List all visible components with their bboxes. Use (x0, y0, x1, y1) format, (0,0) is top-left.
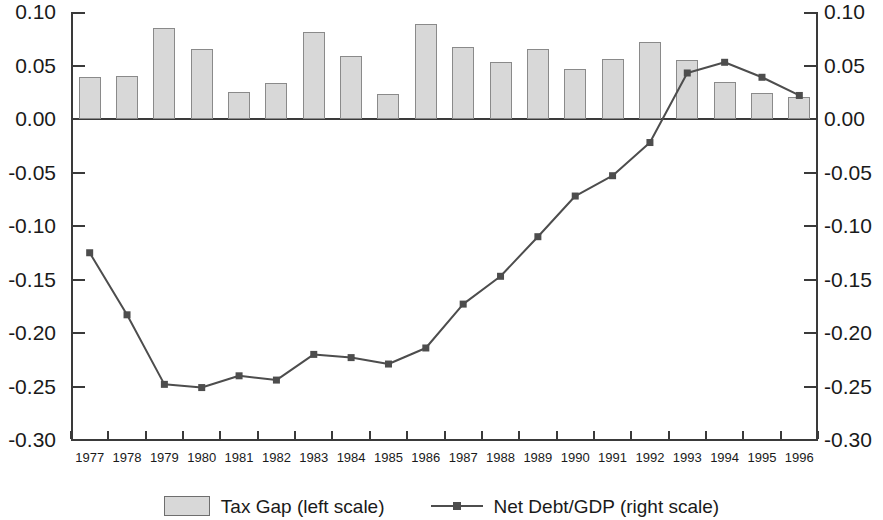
bar-tax-gap (452, 47, 474, 119)
left-axis-tick-label: -0.25 (8, 376, 56, 397)
left-axis-tick-mark (71, 65, 85, 67)
left-axis-tick-label: 0.05 (15, 55, 56, 76)
bar-tax-gap (415, 24, 437, 119)
right-axis-tick-label: 0.00 (824, 108, 865, 129)
x-axis-category-label: 1983 (295, 450, 332, 465)
x-axis-tick-mark (369, 431, 371, 439)
x-axis-category-label: 1992 (631, 450, 668, 465)
bar-tax-gap (265, 83, 287, 119)
x-axis-tick-mark (331, 431, 333, 439)
bar-tax-gap (564, 69, 586, 119)
legend-entry-net-debt-gdp: Net Debt/GDP (right scale) (431, 497, 720, 516)
left-axis-tick-mark (71, 332, 85, 334)
bar-tax-gap (639, 42, 661, 119)
x-axis-tick-mark (257, 431, 259, 439)
x-axis-tick-mark (780, 431, 782, 439)
x-axis-tick-mark (742, 431, 744, 439)
x-axis-tick-mark (145, 431, 147, 439)
x-axis-tick-mark (182, 431, 184, 439)
x-axis-category-label: 1978 (108, 450, 145, 465)
x-axis-category-label: 1991 (594, 450, 631, 465)
x-axis-tick-mark (593, 431, 595, 439)
x-axis-category-label: 1985 (370, 450, 407, 465)
bar-tax-gap (788, 97, 810, 119)
legend-label-net-debt-gdp: Net Debt/GDP (right scale) (494, 497, 720, 516)
legend-line-marker-icon (431, 500, 483, 512)
left-axis-tick-mark (71, 225, 85, 227)
x-axis-category-label: 1981 (220, 450, 257, 465)
left-axis-tick-mark (71, 279, 85, 281)
right-axis-tick-label: -0.05 (824, 162, 872, 183)
x-axis-category-label: 1980 (183, 450, 220, 465)
left-axis-tick-mark (71, 172, 85, 174)
right-axis-tick-mark (804, 65, 818, 67)
left-axis-tick-label: -0.15 (8, 269, 56, 290)
x-axis-line (71, 439, 818, 441)
x-axis-tick-mark (817, 431, 819, 439)
x-axis-tick-mark (705, 431, 707, 439)
bar-tax-gap (303, 32, 325, 119)
x-axis-category-label: 1984 (332, 450, 369, 465)
bar-tax-gap (751, 93, 773, 119)
bar-tax-gap (602, 59, 624, 119)
x-axis-tick-mark (406, 431, 408, 439)
bar-tax-gap (377, 94, 399, 119)
x-axis-category-label: 1989 (519, 450, 556, 465)
x-axis-tick-mark (219, 431, 221, 439)
x-axis-category-label: 1995 (743, 450, 780, 465)
frame-top-cap-left (71, 12, 85, 14)
left-axis-tick-label: 0.10 (15, 1, 56, 22)
x-axis-category-label: 1982 (258, 450, 295, 465)
x-axis-tick-mark (630, 431, 632, 439)
bar-tax-gap (116, 76, 138, 119)
right-axis-tick-mark (804, 172, 818, 174)
bar-tax-gap (228, 92, 250, 119)
x-axis-category-label: 1979 (146, 450, 183, 465)
bar-tax-gap (527, 49, 549, 119)
right-axis-tick-mark (804, 386, 818, 388)
x-axis-category-label: 1993 (669, 450, 706, 465)
x-axis-tick-mark (70, 431, 72, 439)
x-axis-category-label: 1996 (781, 450, 818, 465)
x-axis-category-label: 1990 (557, 450, 594, 465)
x-axis-category-label: 1988 (482, 450, 519, 465)
chart-title-clipped (0, 0, 883, 1)
bar-tax-gap (714, 82, 736, 119)
right-axis-tick-label: -0.20 (824, 322, 872, 343)
bar-tax-gap (153, 28, 175, 119)
right-axis: 0.100.050.00-0.05-0.10-0.15-0.20-0.25-0.… (824, 0, 883, 450)
x-axis-tick-mark (481, 431, 483, 439)
x-axis-category-label: 1994 (706, 450, 743, 465)
x-axis-category-label: 1987 (445, 450, 482, 465)
left-axis-tick-mark (71, 386, 85, 388)
left-axis-tick-label: 0.00 (15, 108, 56, 129)
left-axis: 0.100.050.00-0.05-0.10-0.15-0.20-0.25-0.… (0, 0, 56, 450)
left-axis-tick-label: -0.20 (8, 322, 56, 343)
right-axis-tick-mark (804, 279, 818, 281)
right-axis-tick-mark (804, 225, 818, 227)
x-axis-tick-mark (444, 431, 446, 439)
bar-tax-gap (676, 60, 698, 119)
right-axis-tick-label: -0.10 (824, 215, 872, 236)
legend-swatch-icon (164, 496, 210, 516)
bar-tax-gap (79, 77, 101, 119)
legend-entry-tax-gap: Tax Gap (left scale) (164, 496, 385, 516)
right-axis-tick-label: 0.10 (824, 1, 865, 22)
legend-label-tax-gap: Tax Gap (left scale) (221, 497, 385, 516)
x-axis-tick-mark (556, 431, 558, 439)
plot-area (71, 12, 818, 440)
x-axis-tick-mark (294, 431, 296, 439)
x-axis-category-label: 1977 (71, 450, 108, 465)
x-axis-tick-mark (668, 431, 670, 439)
bar-tax-gap (490, 62, 512, 119)
x-axis-tick-mark (107, 431, 109, 439)
bar-tax-gap (191, 49, 213, 119)
right-axis-tick-label: -0.25 (824, 376, 872, 397)
right-axis-tick-label: -0.30 (824, 429, 872, 450)
x-axis-category-label: 1986 (407, 450, 444, 465)
bar-tax-gap (340, 56, 362, 119)
x-axis-tick-mark (518, 431, 520, 439)
left-axis-tick-label: -0.10 (8, 215, 56, 236)
left-axis-tick-label: -0.30 (8, 429, 56, 450)
zero-baseline (71, 118, 818, 120)
